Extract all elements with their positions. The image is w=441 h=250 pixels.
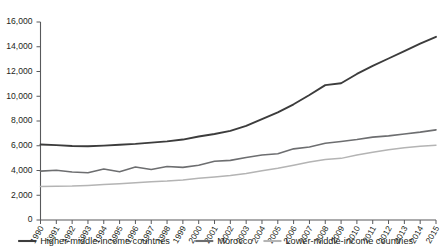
chart-container: 02,0004,0006,0008,00010,00012,00014,0001… [0, 0, 441, 250]
y-tick-label: 6,000 [11, 140, 33, 150]
y-tick-label: 0 [28, 214, 33, 224]
x-tick-label: 2015 [423, 224, 441, 245]
y-tick-label: 16,000 [6, 16, 33, 26]
data-series-group [41, 37, 437, 187]
y-tick-label: 10,000 [6, 91, 33, 101]
y-axis-tick-marks [37, 22, 41, 220]
y-tick-label: 4,000 [11, 165, 33, 175]
line-chart: 02,0004,0006,0008,00010,00012,00014,0001… [0, 0, 441, 250]
x-tick-label: 1999 [170, 224, 188, 245]
y-tick-label: 2,000 [11, 190, 33, 200]
legend-label: Higher-middle-income countries [40, 236, 170, 246]
y-tick-label: 8,000 [11, 115, 33, 125]
y-tick-label: 12,000 [6, 66, 33, 76]
legend-label: Morocco [217, 236, 252, 246]
chart-legend: Higher-middle-income countriesMoroccoLow… [18, 236, 413, 246]
legend-item[interactable]: Lower-middle-income countries [263, 236, 413, 246]
legend-item[interactable]: Higher-middle-income countries [18, 236, 170, 246]
series-line-2 [41, 145, 437, 186]
y-tick-label: 14,000 [6, 41, 33, 51]
series-line-0 [41, 37, 437, 146]
x-axis-tick-marks [41, 220, 437, 224]
legend-label: Lower-middle-income countries [285, 236, 413, 246]
y-axis-tick-labels: 02,0004,0006,0008,00010,00012,00014,0001… [6, 16, 33, 224]
